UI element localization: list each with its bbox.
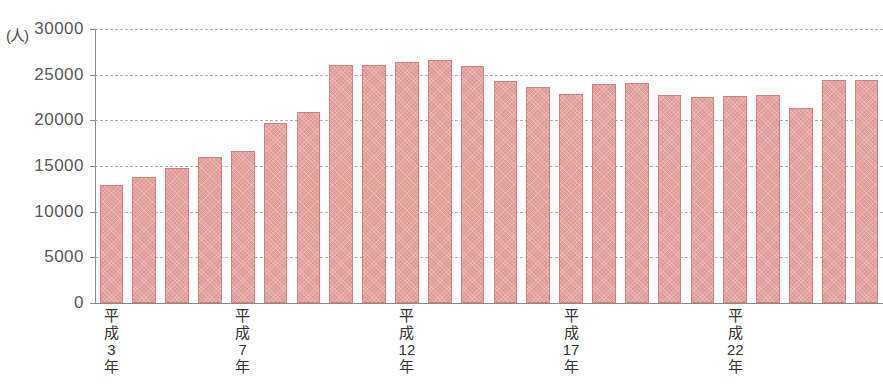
y-tick-label: 25000 [34, 65, 84, 85]
x-tick-label: 平成12年 [397, 307, 417, 375]
bar [592, 84, 616, 303]
x-tick-label-line: 成 [561, 324, 581, 341]
y-tick-label: 0 [74, 293, 84, 313]
x-tick-label-line: 平 [233, 307, 253, 324]
x-tick-label-line: 年 [725, 358, 745, 375]
x-tick-label-line: 平 [101, 307, 121, 324]
x-tick-label-line: 成 [233, 324, 253, 341]
bar [723, 96, 747, 303]
y-tick-label: 5000 [44, 247, 84, 267]
bar [658, 95, 682, 303]
bar [855, 80, 879, 303]
x-tick-label: 平成17年 [561, 307, 581, 375]
bar [264, 123, 288, 303]
bar [691, 97, 715, 303]
x-tick-label-line: 成 [101, 324, 121, 341]
y-axis-tick [90, 303, 95, 304]
x-tick-label-line: 22 [725, 341, 745, 358]
y-tick-label: 15000 [34, 156, 84, 176]
x-tick-label-line: 平 [397, 307, 417, 324]
x-axis-tick-labels: 平成3年平成7年平成12年平成17年平成22年 [95, 305, 883, 391]
bar [428, 60, 452, 303]
bar [559, 94, 583, 303]
y-tick-label: 10000 [34, 202, 84, 222]
bar [822, 80, 846, 303]
bar-series [95, 29, 883, 303]
bar [165, 168, 189, 303]
bar [329, 65, 353, 303]
x-tick-label-line: 成 [397, 324, 417, 341]
x-tick-label: 平成22年 [725, 307, 745, 375]
x-tick-label-line: 17 [561, 341, 581, 358]
x-tick-label-line: 7 [233, 341, 253, 358]
bar [100, 185, 124, 303]
bar [789, 108, 813, 303]
bar [132, 177, 156, 303]
bar [198, 157, 222, 303]
x-tick-label-line: 平 [725, 307, 745, 324]
bar [756, 95, 780, 303]
y-tick-label: 20000 [34, 110, 84, 130]
x-tick-label: 平成3年 [101, 307, 121, 375]
x-tick-label-line: 年 [101, 358, 121, 375]
gridline [95, 303, 883, 304]
x-tick-label-line: 3 [101, 341, 121, 358]
bar [395, 62, 419, 303]
x-tick-label-line: 平 [561, 307, 581, 324]
y-axis-tick-labels: 300002500020000150001000050000 [0, 0, 92, 391]
bar [625, 83, 649, 303]
bar-chart: (人) 300002500020000150001000050000 平成3年平… [0, 0, 883, 391]
x-tick-label-line: 12 [397, 341, 417, 358]
x-tick-label-line: 年 [233, 358, 253, 375]
bar [297, 112, 321, 303]
bar [231, 151, 255, 303]
x-tick-label-line: 年 [397, 358, 417, 375]
bar [461, 66, 485, 303]
x-tick-label-line: 成 [725, 324, 745, 341]
x-tick-label-line: 年 [561, 358, 581, 375]
y-tick-label: 30000 [34, 19, 84, 39]
plot-area [95, 29, 883, 303]
x-tick-label: 平成7年 [233, 307, 253, 375]
bar [362, 65, 386, 303]
bar [494, 81, 518, 303]
bar [526, 87, 550, 303]
